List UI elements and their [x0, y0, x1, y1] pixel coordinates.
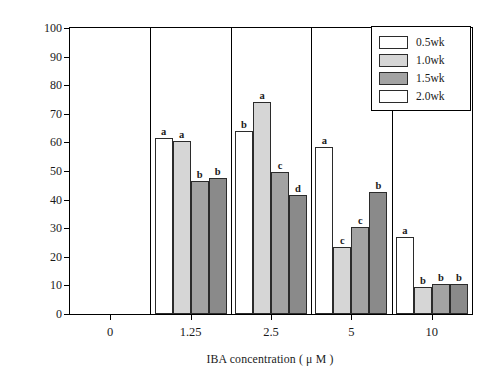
legend-label: 0.5wk — [416, 36, 444, 48]
y-axis-tick-label: 40 — [34, 192, 62, 207]
x-axis-tick-label: 2.5 — [263, 325, 279, 340]
bar-significance-label: c — [278, 160, 283, 171]
bar: a — [173, 141, 191, 314]
bar: b — [209, 178, 227, 314]
bar-chart-figure: Rooting percentages ( % ) 01020304050607… — [0, 0, 489, 385]
bar: b — [432, 284, 450, 314]
y-axis-tick-label: 10 — [34, 278, 62, 293]
x-axis-tick-mark — [110, 314, 111, 320]
x-axis-tick-mark — [191, 314, 192, 320]
y-axis-tick-mark — [64, 57, 70, 58]
bar-significance-label: b — [420, 275, 426, 286]
y-axis-tick-label: 20 — [34, 249, 62, 264]
y-axis-tick-mark — [64, 285, 70, 286]
group-separator-line — [311, 28, 312, 314]
bar: a — [253, 102, 271, 314]
y-axis-tick-label: 70 — [34, 106, 62, 121]
bar-significance-label: c — [340, 235, 345, 246]
y-axis-tick-mark — [64, 200, 70, 201]
legend-label: 1.0wk — [416, 54, 444, 66]
bar: d — [289, 195, 307, 314]
bar: b — [450, 284, 468, 314]
y-axis-tick-mark — [64, 171, 70, 172]
bar-significance-label: a — [322, 135, 327, 146]
bar-significance-label: a — [179, 129, 184, 140]
bar-significance-label: b — [215, 166, 221, 177]
legend-swatch — [379, 36, 408, 49]
bar-significance-label: a — [402, 225, 407, 236]
legend: 0.5wk1.0wk1.5wk2.0wk — [371, 26, 471, 111]
x-axis-tick-label: 1.25 — [180, 325, 202, 340]
legend-label: 1.5wk — [416, 72, 444, 84]
y-axis-tick-label: 30 — [34, 221, 62, 236]
bar: b — [235, 131, 253, 314]
bar: a — [315, 147, 333, 314]
y-axis-tick-label: 90 — [34, 49, 62, 64]
x-axis-title: IBA concentration ( μ M ) — [69, 352, 471, 367]
legend-swatch — [379, 72, 408, 85]
bar-significance-label: d — [295, 183, 301, 194]
y-axis-tick-label: 0 — [34, 307, 62, 322]
y-axis-tick-mark — [64, 142, 70, 143]
x-axis-tick-mark — [432, 314, 433, 320]
group-separator-line — [231, 28, 232, 314]
legend-swatch — [379, 54, 408, 67]
bar: b — [369, 192, 387, 314]
y-axis-tick-mark — [64, 85, 70, 86]
bar-significance-label: b — [438, 272, 444, 283]
group-separator-line — [150, 28, 151, 314]
bar: b — [191, 181, 209, 314]
bar: c — [333, 247, 351, 314]
bar-significance-label: a — [161, 126, 166, 137]
y-axis-tick-mark — [64, 228, 70, 229]
y-axis-tick-label: 80 — [34, 78, 62, 93]
bar-significance-label: a — [259, 90, 264, 101]
legend-swatch — [379, 90, 408, 103]
y-axis-tick-mark — [64, 114, 70, 115]
y-axis-tick-label: 100 — [34, 21, 62, 36]
bar-significance-label: c — [358, 215, 363, 226]
bar: c — [271, 172, 289, 314]
bar-significance-label: b — [456, 272, 462, 283]
x-axis-tick-label: 5 — [348, 325, 354, 340]
y-axis-tick-mark — [64, 314, 70, 315]
y-axis-tick-label: 50 — [34, 164, 62, 179]
x-axis-tick-label: 10 — [426, 325, 439, 340]
bar: c — [351, 227, 369, 314]
bar: a — [396, 237, 414, 314]
bar-significance-label: b — [375, 180, 381, 191]
legend-item: 1.5wk — [379, 69, 465, 87]
y-axis-tick-label: 60 — [34, 135, 62, 150]
bar-significance-label: b — [241, 119, 247, 130]
bar: b — [414, 287, 432, 314]
legend-item: 1.0wk — [379, 51, 465, 69]
x-axis-tick-label: 0 — [107, 325, 113, 340]
y-axis-tick-mark — [64, 257, 70, 258]
legend-item: 0.5wk — [379, 33, 465, 51]
y-axis-tick-mark — [64, 28, 70, 29]
x-axis-tick-mark — [271, 314, 272, 320]
x-axis-tick-mark — [351, 314, 352, 320]
bar: a — [155, 138, 173, 314]
bar-significance-label: b — [197, 169, 203, 180]
legend-item: 2.0wk — [379, 87, 465, 105]
legend-label: 2.0wk — [416, 90, 444, 102]
